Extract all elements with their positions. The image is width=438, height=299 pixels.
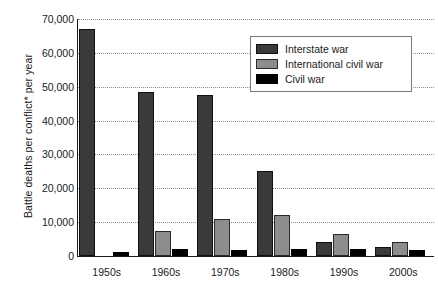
bar: [409, 250, 425, 256]
bar: [155, 231, 171, 256]
chart-legend: Interstate warInternational civil warCiv…: [250, 36, 412, 92]
bar: [197, 95, 213, 256]
y-axis-tick-label: 20,000: [24, 183, 74, 193]
y-axis-tick-label: 50,000: [24, 82, 74, 92]
legend-item: Civil war: [256, 72, 405, 86]
civil-swatch: [256, 74, 278, 84]
legend-item-label: Civil war: [285, 74, 325, 85]
y-axis-tick-label: 70,000: [24, 14, 74, 24]
bar: [257, 171, 273, 256]
x-axis-tick-label: 1990s: [314, 266, 373, 278]
x-axis-tick-label: 1960s: [136, 266, 195, 278]
bar: [375, 247, 391, 256]
bar: [274, 215, 290, 256]
y-axis-tick-label: 60,000: [24, 48, 74, 58]
bar-group: [79, 19, 129, 256]
bar: [214, 219, 230, 256]
interstate-swatch: [256, 44, 278, 54]
bar: [231, 250, 247, 256]
bar: [138, 92, 154, 256]
x-axis-tick-label: 1950s: [77, 266, 136, 278]
x-axis-tick-label: 1970s: [196, 266, 255, 278]
bar: [79, 29, 95, 256]
bar: [392, 242, 408, 256]
y-axis-tick-label: 0: [24, 251, 74, 261]
legend-item: International civil war: [256, 57, 405, 71]
y-axis-tick-labels: 010,00020,00030,00040,00050,00060,00070,…: [18, 0, 74, 299]
international-civil-swatch: [256, 59, 278, 69]
bar: [172, 249, 188, 256]
bar-chart: Battle deaths per conflict* per year 010…: [0, 0, 438, 299]
bar: [333, 234, 349, 256]
x-axis-tick-label: 1980s: [255, 266, 314, 278]
bar-group: [197, 19, 247, 256]
legend-item-label: Interstate war: [285, 44, 349, 55]
bar: [316, 242, 332, 256]
y-axis-tick-label: 40,000: [24, 116, 74, 126]
bar: [350, 249, 366, 256]
y-axis-tick-label: 30,000: [24, 149, 74, 159]
legend-item: Interstate war: [256, 42, 405, 56]
y-axis-tick-label: 10,000: [24, 217, 74, 227]
bar: [291, 249, 307, 256]
x-axis-tick-labels: 1950s1960s1970s1980s1990s2000s: [77, 266, 433, 286]
bar: [113, 252, 129, 256]
bar-group: [138, 19, 188, 256]
legend-item-label: International civil war: [285, 59, 383, 70]
x-axis-tick-label: 2000s: [374, 266, 433, 278]
